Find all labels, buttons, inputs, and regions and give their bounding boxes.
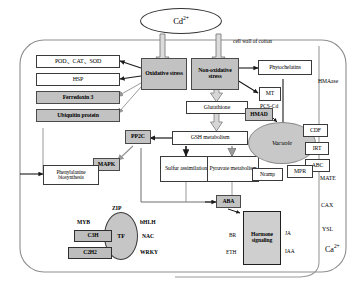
cell-wall-label: cell wall of cotton [233, 38, 272, 44]
label-ja: JA [285, 230, 291, 236]
label-cax: CAX [321, 202, 333, 208]
label-nac: NAC [142, 233, 154, 239]
label-ysl: YSL [322, 226, 333, 232]
node-non-oxidative-stress: Non-oxidative stress [191, 58, 239, 90]
node-mpr: MPR [287, 165, 313, 178]
label-calcium: Ca2+ [325, 243, 340, 254]
node-nramp: Nramp [252, 168, 283, 181]
node-gsh-metabolism: GSH metabolism [172, 131, 248, 145]
cadmium-input-node: Cd2+ [140, 8, 222, 34]
label-zip: ZIP [112, 205, 121, 211]
node-pod-cat-sod: POD、CAT、SOD [36, 55, 120, 68]
label-iaa: IAA [285, 248, 295, 254]
node-ubiquitin-protein: Ubiquitin protein [36, 109, 120, 122]
label-eth: ETH [226, 249, 236, 255]
cadmium-label: Cd2+ [173, 16, 189, 25]
node-phytochelatins: Phytochelatins [258, 60, 312, 75]
label-bhlh: bHLH [140, 219, 156, 225]
node-oxidative-stress: Oxidative stress [141, 58, 187, 90]
node-hmad: HMAD [245, 108, 273, 121]
label-wrky: WRKY [140, 249, 158, 255]
label-myb: MYB [77, 219, 90, 225]
node-aba: ABA [216, 195, 241, 208]
node-irt: IRT [305, 142, 329, 155]
node-sulfur-assimilation: Sulfur assimilation [160, 156, 212, 182]
pathway-diagram: Cd2+ cell wall of cotton Oxidative stres… [0, 0, 361, 298]
node-phenylalanine-biosynthesis: Phenylalanine biosynthesis [43, 165, 99, 185]
node-hsp: HSP [36, 73, 120, 86]
node-c2h2: C2H2 [68, 247, 112, 259]
node-pp2c: PP2C [125, 130, 151, 144]
node-c3h: C3H [74, 230, 112, 242]
label-hmaase: HMAase [318, 78, 338, 84]
node-ferredoxin-3: Ferredoxin 3 [36, 91, 120, 104]
node-hormone-signaling: Hormone signaling [243, 211, 281, 265]
node-glutathione: Glutathione [186, 101, 248, 114]
label-mate: MATE [320, 175, 336, 181]
node-cdf: CDF [303, 124, 328, 137]
label-br: BR [229, 232, 236, 238]
node-mt: MT [259, 87, 281, 101]
